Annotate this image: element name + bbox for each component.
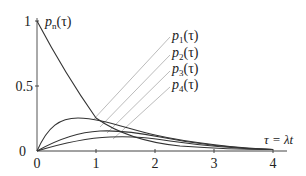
x-tick-4: 4 — [270, 156, 277, 171]
x-ticks: 0 1 2 3 4 — [34, 149, 277, 171]
y-ticks: 0 0.5 1 — [16, 14, 40, 159]
x-axis-label: τ = λt — [264, 132, 294, 147]
label-p3: p3(τ) — [171, 61, 199, 78]
y-axis-label: pn(τ) — [44, 14, 72, 31]
y-tick-0: 0 — [19, 144, 26, 159]
y-tick-0-5: 0.5 — [16, 79, 34, 94]
x-tick-2: 2 — [152, 156, 159, 171]
poisson-chart: 0 1 2 3 4 0 0.5 1 pn(τ) p1(τ) p2(τ) p3(τ… — [0, 0, 306, 176]
x-tick-3: 3 — [211, 156, 218, 171]
x-tick-1: 1 — [93, 156, 100, 171]
label-p2: p2(τ) — [171, 45, 199, 62]
x-tick-0: 0 — [34, 156, 41, 171]
label-p4: p4(τ) — [171, 77, 199, 94]
curve-p1 — [37, 118, 273, 151]
y-tick-1: 1 — [24, 14, 31, 29]
label-p1: p1(τ) — [171, 28, 199, 45]
